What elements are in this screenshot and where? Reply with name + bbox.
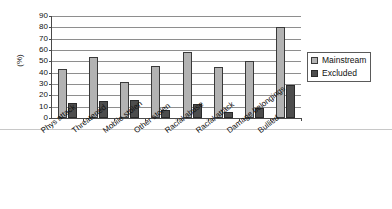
legend-item-excluded[interactable]: Excluded xyxy=(311,69,366,78)
x-axis-tick-labels: Phys attackThreatenedMobile stolenOther … xyxy=(0,0,392,209)
legend-label-excluded: Excluded xyxy=(322,69,357,78)
legend-item-mainstream[interactable]: Mainstream xyxy=(311,56,366,65)
legend-swatch-icon-excluded xyxy=(311,70,318,77)
legend-label-mainstream: Mainstream xyxy=(322,56,366,65)
x-axis-label-7: Bullied xyxy=(257,113,281,135)
legend-swatch-icon-mainstream xyxy=(311,57,318,64)
legend: Mainstream Excluded xyxy=(307,52,371,82)
bar-chart: (%) 0102030405060708090 Phys attackThrea… xyxy=(0,0,392,209)
